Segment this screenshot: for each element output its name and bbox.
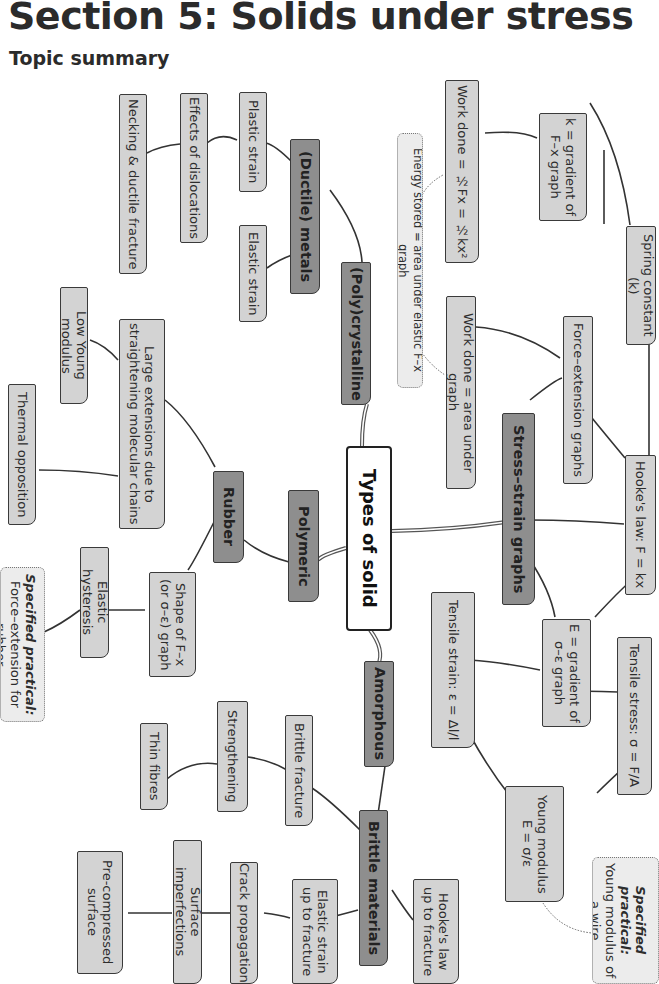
practical-label: Specified practical: bbox=[23, 574, 38, 716]
node-pre-compressed-surface[interactable]: Pre-compressed surface bbox=[77, 851, 123, 974]
node-polymeric[interactable]: Polymeric bbox=[288, 490, 319, 602]
node-tensile-stress[interactable]: Tensile stress: σ = F/A bbox=[617, 637, 652, 795]
node-necking-ductile-fracture[interactable]: Necking & ductile fracture bbox=[119, 94, 147, 274]
node-e-gradient[interactable]: E = gradient of σ–ε graph bbox=[542, 619, 591, 727]
practical-text: Young modulus of a wire bbox=[592, 863, 618, 978]
node-ductile-metals[interactable]: (Ductile) metals bbox=[290, 139, 320, 294]
node-stress-strain-graphs[interactable]: Stress–strain graphs bbox=[502, 413, 535, 605]
node-tensile-strain[interactable]: Tensile strain: ε = Δl/l bbox=[431, 592, 475, 748]
node-plastic-strain[interactable]: Plastic strain bbox=[239, 92, 267, 192]
node-thin-fibres[interactable]: Thin fibres bbox=[140, 723, 168, 810]
note-practical-wire[interactable]: Specified practical: Young modulus of a … bbox=[592, 857, 659, 984]
practical-label: Specified practical: bbox=[618, 886, 648, 955]
node-shape-of-fx-graph[interactable]: Shape of F–x (or σ–ε) graph bbox=[149, 572, 196, 677]
node-hookes-law[interactable]: Hooke's law: F = kx bbox=[625, 455, 656, 595]
node-hookes-law-up-to-fracture[interactable]: Hooke's law up to fracture bbox=[413, 879, 459, 984]
node-work-done-formula[interactable]: Work done = ½Fx = ½kx² bbox=[445, 80, 479, 263]
note-practical-rubber[interactable]: Specified practical: Force–extension for… bbox=[0, 567, 45, 722]
node-elastic-hysteresis[interactable]: Elastic hysteresis bbox=[80, 547, 109, 658]
node-k-gradient[interactable]: k = gradient of F–x graph bbox=[539, 113, 587, 221]
node-brittle-fracture[interactable]: Brittle fracture bbox=[285, 715, 313, 826]
node-polycrystalline[interactable]: (Poly)crystalline bbox=[341, 262, 371, 405]
node-strengthening[interactable]: Strengthening bbox=[217, 701, 248, 812]
practical-text: Force–extension for rubber bbox=[0, 581, 23, 708]
node-force-extension-graphs[interactable]: Force–extension graphs bbox=[563, 316, 593, 484]
node-work-done-area[interactable]: Work done = area under graph bbox=[446, 296, 476, 489]
node-thermal-opposition[interactable]: Thermal opposition bbox=[8, 384, 36, 525]
node-surface-imperfections[interactable]: Surface imperfections bbox=[173, 840, 202, 984]
node-amorphous[interactable]: Amorphous bbox=[364, 661, 394, 767]
note-energy-stored[interactable]: Energy stored = area under elastic F–x g… bbox=[397, 133, 423, 388]
node-rubber[interactable]: Rubber bbox=[213, 471, 244, 563]
node-effects-of-dislocations[interactable]: Effects of dislocations bbox=[180, 93, 208, 243]
node-elastic-strain-up-to-fracture[interactable]: Elastic strain up to fracture bbox=[292, 879, 338, 984]
node-elastic-strain[interactable]: Elastic strain bbox=[239, 225, 267, 322]
root-node-types-of-solid[interactable]: Types of solid bbox=[346, 446, 392, 631]
node-low-young-modulus[interactable]: Low Young modulus bbox=[60, 287, 88, 404]
node-brittle-materials[interactable]: Brittle materials bbox=[359, 810, 388, 966]
node-young-modulus[interactable]: Young modulus E = σ/ε bbox=[505, 786, 564, 902]
node-crack-propagation[interactable]: Crack propagation bbox=[230, 862, 258, 984]
node-spring-constant[interactable]: Spring constant (k) bbox=[626, 226, 656, 345]
node-large-extensions[interactable]: Large extensions due to straightening mo… bbox=[119, 319, 165, 529]
